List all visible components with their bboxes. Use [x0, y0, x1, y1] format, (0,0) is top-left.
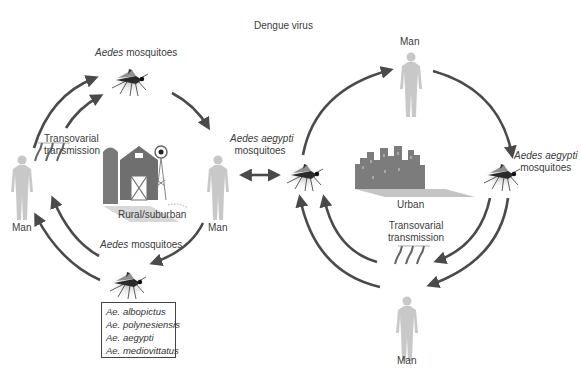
- mosquito-bottom-icon: [108, 271, 148, 299]
- species-item: Ae. aegypti: [106, 331, 175, 344]
- mosquito-link-icon: [285, 163, 325, 191]
- human-mid-icon: [207, 156, 229, 221]
- human-bottom-icon: [396, 297, 418, 362]
- urban-right-vector-label: Aedes aegyptimosquitoes: [514, 150, 577, 174]
- urban-transovarial-label: Transovarialtransmission: [388, 220, 444, 244]
- rural-setting-label: Rural/suburban: [118, 209, 186, 221]
- urban-setting-label: Urban: [397, 199, 424, 211]
- rural-transovarial-label: Transovarialtransmission: [44, 133, 100, 157]
- human-left-icon: [11, 156, 33, 221]
- mosquito-top-icon: [110, 68, 150, 96]
- city-skyline-icon: [355, 146, 475, 197]
- human-top-icon: [400, 53, 422, 118]
- rural-top-vector-label: Aedes mosquitoes: [95, 47, 177, 59]
- rural-left-host-label: Man: [12, 222, 31, 234]
- rural-right-host-label: Man: [208, 222, 227, 234]
- rural-bottom-vector-label: Aedes mosquitoes: [100, 239, 182, 251]
- species-item: Ae. albopictus: [106, 305, 175, 318]
- urban-top-host-label: Man: [400, 36, 419, 48]
- urban-bottom-host-label: Man: [397, 355, 416, 367]
- species-item: Ae. polynesiensis: [106, 318, 175, 331]
- aedes-species-box: Ae. albopictus Ae. polynesiensis Ae. aeg…: [101, 302, 176, 358]
- dengue-cycle-diagram: [0, 0, 581, 374]
- larvae-urban-icon: [395, 246, 430, 264]
- diagram-title: Dengue virus: [254, 20, 313, 32]
- species-item: Ae. mediovittatus: [106, 344, 175, 357]
